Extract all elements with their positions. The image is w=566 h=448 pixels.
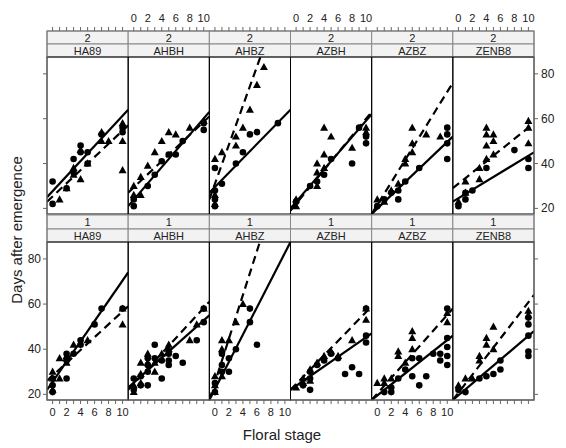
circle-marker	[381, 389, 388, 396]
circle-marker	[483, 165, 490, 172]
triangle-marker	[218, 336, 226, 343]
strip-genotype-label: ZENB8	[476, 45, 511, 57]
circle-marker	[212, 165, 219, 172]
circle-marker	[275, 120, 282, 127]
triangle-marker	[56, 354, 64, 361]
circle-marker	[151, 171, 158, 178]
circle-marker	[226, 368, 233, 375]
y-tick-label-left: 80	[28, 252, 42, 266]
triangle-marker	[482, 334, 490, 341]
circle-marker	[409, 373, 416, 380]
circle-marker	[395, 375, 402, 382]
y-tick-label-right: 40	[541, 157, 555, 171]
triangle-marker	[260, 63, 268, 70]
panel-2-ahbz: 2AHBZ	[209, 0, 290, 214]
circle-marker	[409, 355, 416, 362]
panel-2-azbz: 2AZBZ	[372, 31, 453, 214]
triangle-marker	[348, 336, 356, 343]
circle-marker	[91, 321, 98, 328]
triangle-marker	[320, 352, 328, 359]
panel-2-ha89: 2HA89	[47, 31, 128, 214]
circle-marker	[444, 362, 451, 369]
triangle-marker	[77, 175, 85, 182]
strip-level-label: 1	[490, 216, 496, 228]
circle-marker	[172, 151, 179, 158]
strip-level-label: 1	[328, 216, 334, 228]
circle-marker	[444, 344, 451, 351]
circle-marker	[363, 140, 370, 147]
panel-plot-area	[291, 304, 372, 393]
triangle-marker	[98, 128, 106, 135]
strip-genotype-label: ZENB8	[476, 230, 511, 242]
x-tick-label-top: 2	[469, 12, 475, 24]
circle-marker	[158, 357, 165, 364]
x-tick-label-top: 6	[173, 12, 179, 24]
triangle-marker	[482, 341, 490, 348]
triangle-marker	[408, 345, 416, 352]
panel-plot-area	[372, 83, 453, 214]
triangle-marker	[119, 137, 127, 144]
x-tick-label-bottom: 10	[279, 406, 291, 418]
circle-marker	[98, 305, 105, 312]
x-tick-label-top: 0	[293, 12, 299, 24]
circle-marker	[462, 389, 469, 396]
triangle-marker	[320, 150, 328, 157]
x-tick-label-top: 8	[349, 12, 355, 24]
triangle-marker	[218, 148, 226, 155]
strip-level-label: 2	[166, 32, 172, 44]
panel-1-zenb8: 1ZENB8	[453, 215, 534, 400]
triangle-marker	[380, 374, 388, 381]
triangle-marker	[239, 123, 247, 130]
x-tick-label-top: 10	[360, 12, 372, 24]
circle-marker	[165, 151, 172, 158]
triangle-marker	[475, 175, 483, 182]
triangle-marker	[137, 173, 145, 180]
circle-marker	[349, 160, 356, 167]
triangle-marker	[172, 130, 180, 137]
x-tick-label-top: 8	[511, 12, 517, 24]
strip-level-label: 2	[85, 32, 91, 44]
triangle-marker	[454, 381, 462, 388]
triangle-marker	[320, 123, 328, 130]
circle-marker	[525, 348, 532, 355]
triangle-marker	[524, 307, 532, 314]
circle-marker	[437, 350, 444, 357]
circle-marker	[430, 350, 437, 357]
circle-marker	[151, 341, 158, 348]
circle-marker	[490, 371, 497, 378]
circle-marker	[321, 171, 328, 178]
x-tick-label-bottom: 10	[116, 406, 128, 418]
triangle-marker	[232, 318, 240, 325]
fit-line-solid	[47, 272, 128, 389]
circle-marker	[130, 203, 137, 210]
x-tick-label-bottom: 6	[92, 406, 98, 418]
x-tick-label-bottom: 6	[416, 406, 422, 418]
x-tick-label-bottom: 0	[374, 406, 380, 418]
circle-marker	[423, 373, 430, 380]
triangle-marker	[130, 182, 138, 189]
circle-marker	[200, 127, 207, 134]
panel-plot-area	[453, 117, 534, 210]
triangle-marker	[489, 345, 497, 352]
triangle-marker	[373, 379, 381, 386]
circle-marker	[476, 375, 483, 382]
circle-marker	[219, 362, 226, 369]
triangle-marker	[482, 141, 490, 148]
circle-marker	[483, 373, 490, 380]
triangle-marker	[408, 334, 416, 341]
triangle-marker	[327, 132, 335, 139]
circle-marker	[247, 319, 254, 326]
circle-marker	[444, 124, 451, 131]
triangle-marker	[151, 368, 159, 375]
circle-marker	[49, 178, 56, 185]
panel-plot-area	[372, 305, 453, 400]
triangle-marker	[158, 137, 166, 144]
circle-marker	[525, 165, 532, 172]
triangle-marker	[119, 320, 127, 327]
triangle-marker	[239, 300, 247, 307]
triangle-marker	[408, 327, 416, 334]
circle-marker	[84, 149, 91, 156]
x-tick-label-bottom: 8	[268, 406, 274, 418]
circle-marker	[144, 368, 151, 375]
strip-level-label: 2	[247, 32, 253, 44]
